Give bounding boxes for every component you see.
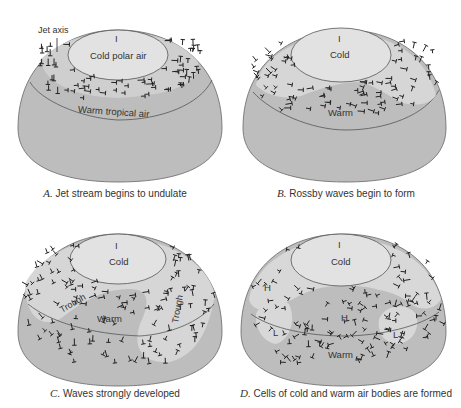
jet-axis-label: Jet axis (38, 25, 69, 35)
wind-arrow-head (94, 74, 95, 78)
hemisphere-d (231, 204, 461, 408)
wind-arrow-head (376, 331, 377, 335)
wind-arrow-head (268, 299, 269, 303)
wind-arrow-head (404, 39, 405, 43)
caption-b: B. Rossby waves begin to form (231, 187, 461, 199)
wind-arrow (79, 88, 85, 89)
pole-marker-d: I (338, 239, 341, 250)
wind-arrow (413, 42, 414, 48)
wind-arrow-head (87, 332, 91, 333)
wind-arrow-head (413, 102, 414, 106)
caption-text-c: Waves strongly developed (63, 388, 180, 399)
wind-arrow-head (292, 101, 293, 105)
wind-arrow (399, 41, 404, 42)
wind-arrow (164, 291, 167, 292)
wind-arrow (410, 103, 413, 104)
wind-arrow (46, 248, 48, 253)
wind-arrow (265, 48, 270, 53)
wind-arrow-head (191, 285, 195, 286)
wind-arrow (50, 246, 52, 249)
caption-a: A. Jet stream begins to undulate (0, 187, 230, 199)
panel-a: Jet axis I Cold polar air Warm tropical … (0, 0, 230, 204)
wind-arrow (325, 102, 331, 103)
wind-arrow-head (380, 94, 381, 98)
wind-arrow-head (430, 50, 434, 51)
wind-arrow-head (310, 107, 311, 111)
wind-arrow-head (148, 346, 152, 347)
caption-d: D. Cells of cold and warm air bodies are… (231, 387, 461, 399)
wind-arrow (253, 70, 258, 72)
wind-arrow (358, 111, 365, 112)
wind-arrow-head (302, 335, 306, 336)
wind-arrow-head (412, 42, 416, 43)
wind-arrow (171, 288, 172, 291)
wind-arrow-head (148, 289, 149, 293)
warm-label-d: Warm (328, 349, 353, 360)
wind-arrow (253, 56, 256, 60)
caption-letter-a: A. (43, 187, 52, 199)
wind-arrow (89, 76, 94, 77)
wind-arrow (202, 323, 203, 327)
panel-b: I Cold Warm B. Rossby waves begin to for… (231, 0, 461, 204)
wind-arrow-head (201, 323, 205, 324)
wind-arrow-head (403, 278, 404, 282)
hemisphere-b (231, 0, 461, 204)
wind-arrow-head (390, 328, 391, 332)
wind-arrow-head (90, 89, 91, 93)
wind-arrow-head (363, 293, 367, 294)
wind-arrow-head (84, 79, 85, 83)
wind-arrow (426, 261, 428, 264)
caption-letter-b: B. (277, 187, 286, 199)
caption-letter-c: C. (50, 387, 60, 399)
panel-c: I Cold Warm Trough Trough C. Waves stron… (0, 204, 230, 408)
wind-arrow (252, 64, 254, 67)
pole-marker-b: I (338, 33, 341, 44)
wind-arrow (35, 261, 37, 266)
wind-arrow-head (387, 319, 391, 320)
pole-marker-a: I (115, 33, 118, 44)
wind-arrow (83, 86, 89, 87)
caption-text-d: Cells of cold and warm air bodies are fo… (254, 388, 452, 399)
wind-arrow (423, 45, 426, 51)
low-label-left: L (273, 327, 278, 338)
high-label-left: H (264, 282, 271, 293)
wind-arrow (198, 45, 199, 52)
cold-label-a: Cold polar air (90, 50, 147, 61)
wind-arrow-head (73, 243, 74, 247)
wind-arrow-head (402, 102, 403, 106)
wind-arrow (37, 261, 43, 264)
wind-arrow (286, 249, 289, 250)
wind-arrow (100, 92, 106, 93)
caption-letter-d: D. (240, 387, 251, 399)
caption-text-b: Rossby waves begin to form (289, 188, 415, 199)
panel-d: I Cold Warm H H L L D. Cells of cold and… (231, 204, 461, 408)
wind-arrow-head (385, 100, 386, 104)
wind-arrow (89, 328, 90, 332)
warm-label-b: Warm (328, 107, 353, 118)
cold-label-b: Cold (330, 49, 350, 60)
warm-label-c: Warm (97, 313, 122, 324)
wind-arrow-head (74, 89, 75, 93)
cold-label-c: Cold (109, 256, 129, 267)
wind-arrow-head (420, 56, 424, 58)
wind-arrow-head (285, 59, 286, 63)
cold-label-d: Cold (331, 256, 351, 267)
wind-arrow (268, 300, 273, 301)
caption-c: C. Waves strongly developed (0, 387, 230, 399)
wind-arrow-head (154, 81, 155, 85)
wind-arrow (71, 91, 75, 92)
hemisphere-c (0, 204, 230, 408)
wind-arrow (208, 308, 209, 312)
wind-arrow-head (171, 37, 172, 41)
high-label-center: H (341, 312, 348, 323)
wind-arrow (70, 245, 73, 246)
wind-arrow (426, 293, 427, 300)
wind-arrow (265, 55, 271, 57)
low-label-right: L (393, 329, 398, 340)
wind-arrow-head (135, 293, 136, 297)
wind-arrow (73, 359, 74, 362)
pole-marker-c: I (115, 240, 118, 251)
wind-arrow-head (297, 361, 298, 365)
caption-text-a: Jet stream begins to undulate (56, 188, 187, 199)
wind-arrow-head (187, 77, 191, 78)
